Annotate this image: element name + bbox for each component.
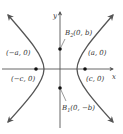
focus-left-point bbox=[34, 67, 38, 71]
focus-left-label: (−c, 0) bbox=[11, 75, 35, 83]
b1-coords: (0, −b) bbox=[70, 104, 95, 112]
vertex-left-label: (−a, 0) bbox=[6, 49, 31, 57]
b1-leader-line bbox=[61, 89, 67, 101]
x-axis-label: x bbox=[112, 73, 116, 81]
b2-point bbox=[58, 47, 62, 51]
focus-right-label: (c, 0) bbox=[86, 75, 105, 83]
b2-leader-line bbox=[61, 39, 66, 48]
b2-coords: (0, b) bbox=[73, 29, 92, 37]
b2-label: B2(0, b) bbox=[64, 29, 92, 38]
hyperbola-diagram: x y (−a, 0) (a, 0) (−c, 0) (c, 0) B2(0, … bbox=[0, 0, 123, 134]
vertex-right-label: (a, 0) bbox=[88, 49, 107, 57]
y-axis-label: y bbox=[52, 12, 58, 20]
b1-point bbox=[58, 86, 62, 90]
hyperbola-left-branch bbox=[8, 15, 44, 122]
b1-label: B1(0, −b) bbox=[61, 104, 95, 113]
focus-right-point bbox=[83, 67, 87, 71]
